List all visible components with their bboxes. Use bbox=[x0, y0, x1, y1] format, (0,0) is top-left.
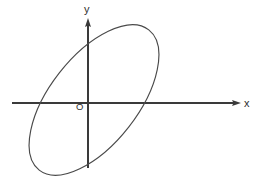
ellipse-curve bbox=[5, 3, 184, 181]
origin-label: O bbox=[76, 101, 83, 112]
x-axis-label: x bbox=[244, 97, 250, 109]
coordinate-plot: y x O bbox=[0, 0, 253, 181]
figure-container: y x O bbox=[0, 0, 253, 181]
y-axis-label: y bbox=[84, 3, 90, 15]
